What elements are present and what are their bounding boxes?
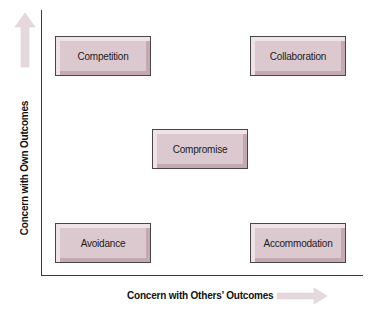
x-axis-line xyxy=(41,275,363,276)
box-label: Avoidance xyxy=(81,238,126,249)
right-arrow-icon xyxy=(276,287,328,305)
box-compromise: Compromise xyxy=(152,129,248,169)
y-axis-label: Concern with Own Outcomes xyxy=(19,101,30,235)
box-label: Collaboration xyxy=(270,51,326,62)
x-axis-label: Concern with Others’ Outcomes xyxy=(127,290,273,301)
box-label: Accommodation xyxy=(263,238,332,249)
y-axis-line xyxy=(41,10,42,276)
box-label: Compromise xyxy=(173,144,228,155)
up-arrow-icon xyxy=(14,12,36,68)
box-accommodation: Accommodation xyxy=(250,223,346,263)
box-competition: Competition xyxy=(55,36,151,76)
box-label: Competition xyxy=(77,51,128,62)
box-avoidance: Avoidance xyxy=(55,223,151,263)
box-collaboration: Collaboration xyxy=(250,36,346,76)
